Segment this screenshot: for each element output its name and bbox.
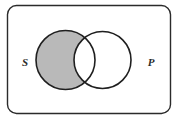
venn-diagram-canvas: S P <box>0 0 179 122</box>
venn-diagram-figure: S P <box>0 0 179 122</box>
label-s: S <box>22 56 28 68</box>
label-p: P <box>148 56 155 68</box>
